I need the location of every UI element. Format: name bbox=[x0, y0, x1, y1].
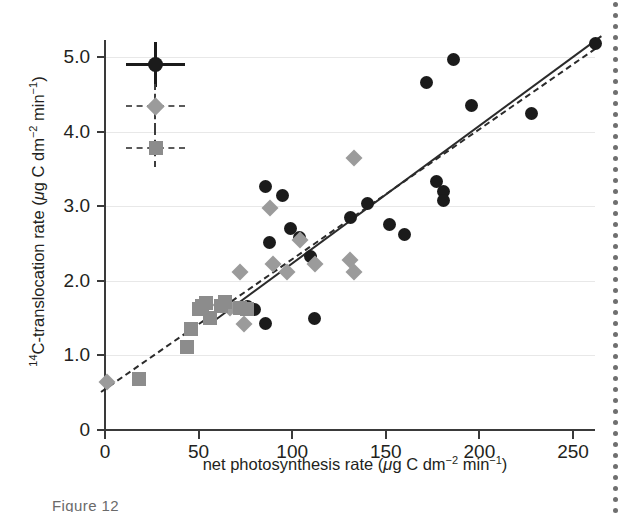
edge-rule-dot bbox=[613, 299, 618, 304]
data-point-circle bbox=[263, 236, 276, 249]
x-unit-close: ) bbox=[502, 455, 508, 473]
y-tick-label: 3.0 bbox=[44, 196, 90, 215]
data-point-circle bbox=[437, 194, 450, 207]
edge-rule-dot bbox=[613, 145, 618, 150]
edge-rule-dot bbox=[613, 211, 618, 216]
edge-rule-dot bbox=[613, 35, 618, 40]
data-point-circle bbox=[259, 317, 272, 330]
y-unit-mu: μ bbox=[29, 191, 47, 200]
edge-rule-dot bbox=[613, 123, 618, 128]
data-point-square bbox=[240, 302, 254, 316]
data-point-diamond bbox=[261, 199, 278, 216]
edge-rule-dot bbox=[613, 453, 618, 458]
x-tick bbox=[291, 431, 293, 439]
edge-rule-dot bbox=[613, 508, 618, 513]
x-axis-title: net photosynthesis rate (μg C dm−2 min−1… bbox=[95, 455, 615, 474]
data-point-circle bbox=[420, 76, 433, 89]
edge-rule-dot bbox=[613, 79, 618, 84]
edge-rule-dot bbox=[613, 57, 618, 62]
x-tick bbox=[104, 431, 106, 439]
edge-rule-dot bbox=[613, 321, 618, 326]
y-unit-exp2: −1 bbox=[27, 82, 39, 95]
x-unit-min: min bbox=[463, 455, 490, 473]
edge-rule-dot bbox=[613, 266, 618, 271]
y-unit-open: ( bbox=[29, 200, 47, 206]
edge-rule-dot bbox=[613, 222, 618, 227]
page-edge-dotted-rule bbox=[613, 0, 619, 512]
data-point-circle bbox=[308, 312, 321, 325]
data-point-circle bbox=[447, 53, 460, 66]
y-tick bbox=[97, 354, 105, 356]
edge-rule-dot bbox=[613, 244, 618, 249]
y-tick bbox=[97, 56, 105, 58]
data-point-circle bbox=[259, 180, 272, 193]
edge-rule-dot bbox=[613, 178, 618, 183]
edge-rule-dot bbox=[613, 189, 618, 194]
edge-rule-dot bbox=[613, 13, 618, 18]
data-point-square bbox=[218, 295, 232, 309]
data-point-square bbox=[199, 296, 213, 310]
x-unit-exp2: −1 bbox=[489, 454, 502, 466]
y-tick-label: 0 bbox=[44, 420, 90, 439]
y-axis-title-text: C-translocation rate bbox=[29, 210, 47, 354]
y-title-presup: 14 bbox=[27, 354, 39, 366]
edge-rule-dot bbox=[613, 156, 618, 161]
edge-rule-dot bbox=[613, 134, 618, 139]
y-unit-exp1: −2 bbox=[27, 126, 39, 139]
edge-rule-dot bbox=[613, 354, 618, 359]
data-point-square bbox=[184, 322, 198, 336]
data-point-circle bbox=[465, 99, 478, 112]
edge-rule-dot bbox=[613, 68, 618, 73]
y-unit-close: ) bbox=[29, 76, 47, 82]
x-unit-exp1: −2 bbox=[446, 454, 459, 466]
x-tick bbox=[572, 431, 574, 439]
y-axis-title: 14C-translocation rate (μg C dm−2 min−1) bbox=[29, 12, 48, 432]
edge-rule-dot bbox=[613, 332, 618, 337]
x-tick bbox=[198, 431, 200, 439]
edge-rule-dot bbox=[613, 365, 618, 370]
data-point-square bbox=[180, 340, 194, 354]
edge-rule-dot bbox=[613, 398, 618, 403]
figure-caption: Figure 12 bbox=[52, 497, 312, 512]
x-tick bbox=[478, 431, 480, 439]
edge-rule-dot bbox=[613, 431, 618, 436]
data-point-circle bbox=[383, 218, 396, 231]
edge-rule-dot bbox=[613, 497, 618, 502]
data-point-circle bbox=[525, 107, 538, 120]
edge-rule-dot bbox=[613, 255, 618, 260]
y-unit-min: min bbox=[29, 94, 47, 121]
y-tick-label: 5.0 bbox=[44, 47, 90, 66]
data-point-diamond bbox=[345, 149, 362, 166]
data-point-circle bbox=[361, 197, 374, 210]
edge-rule-dot bbox=[613, 288, 618, 293]
edge-rule-dot bbox=[613, 486, 618, 491]
edge-rule-dot bbox=[613, 90, 618, 95]
plot-area bbox=[105, 40, 595, 430]
y-tick-label: 1.0 bbox=[44, 345, 90, 364]
y-tick bbox=[97, 205, 105, 207]
edge-rule-dot bbox=[613, 112, 618, 117]
data-point-square bbox=[203, 311, 217, 325]
edge-rule-dot bbox=[613, 442, 618, 447]
data-point-diamond bbox=[98, 373, 115, 390]
x-axis-title-text: net photosynthesis rate bbox=[203, 455, 374, 473]
data-point-circle bbox=[344, 211, 357, 224]
x-tick bbox=[385, 431, 387, 439]
y-tick-label: 4.0 bbox=[44, 122, 90, 141]
y-tick bbox=[97, 280, 105, 282]
edge-rule-dot bbox=[613, 167, 618, 172]
data-point-diamond bbox=[231, 263, 248, 280]
data-point-square bbox=[132, 372, 146, 386]
edge-rule-dot bbox=[613, 24, 618, 29]
edge-rule-dot bbox=[613, 409, 618, 414]
edge-rule-dot bbox=[613, 343, 618, 348]
edge-rule-dot bbox=[613, 277, 618, 282]
edge-rule-dot bbox=[613, 46, 618, 51]
x-unit-gcdm: g C dm bbox=[392, 455, 445, 473]
data-point-diamond bbox=[235, 316, 252, 333]
edge-rule-dot bbox=[613, 420, 618, 425]
edge-rule-dot bbox=[613, 101, 618, 106]
edge-rule-dot bbox=[613, 464, 618, 469]
edge-rule-dot bbox=[613, 310, 618, 315]
